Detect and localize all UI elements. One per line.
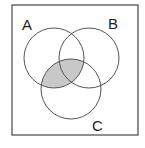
set-b-label: B — [108, 15, 118, 32]
set-a-label: A — [22, 16, 32, 33]
venn-diagram: A B C — [0, 0, 145, 148]
set-c-label: C — [92, 117, 103, 134]
